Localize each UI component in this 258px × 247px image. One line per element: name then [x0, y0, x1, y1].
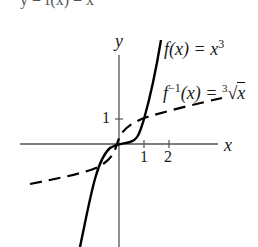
curve-f-label-exponent: 3 — [218, 37, 224, 51]
radical-sign-icon: √ — [227, 83, 237, 103]
x-tick-label-1: 1 — [140, 149, 148, 165]
curve-f-inverse-label: f−1(x) = 3√x — [163, 82, 245, 102]
curve-f-inverse-mid: (x) = — [181, 83, 222, 103]
curve-f-inverse-radicand: x — [237, 82, 245, 103]
curve-f-label-text: f(x) = x — [164, 39, 218, 59]
curve-f-inverse — [30, 98, 222, 184]
curve-f-label: f(x) = x3 — [164, 38, 224, 58]
x-axis-label: x — [224, 136, 232, 154]
curve-f-inverse-exponent: −1 — [168, 81, 181, 95]
x-tick-label-2: 2 — [164, 149, 172, 165]
y-axis-label: y — [115, 32, 123, 50]
y-tick-label-1: 1 — [102, 110, 110, 126]
